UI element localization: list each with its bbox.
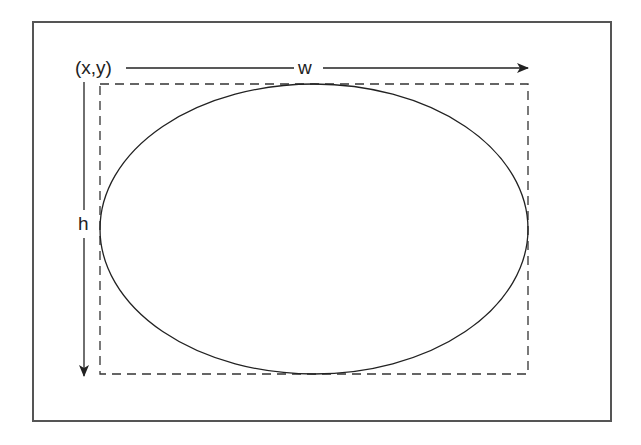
width-label: w <box>297 57 312 78</box>
outer-frame <box>33 22 611 421</box>
origin-label: (x,y) <box>75 57 112 78</box>
ellipse-diagram: (x,y) w h <box>0 0 641 445</box>
height-label: h <box>78 213 89 234</box>
